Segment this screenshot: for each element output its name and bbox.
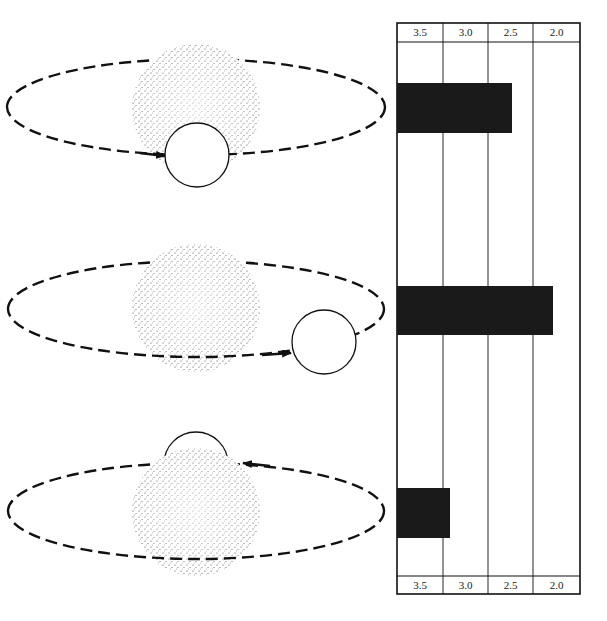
bar-secondary-eclipse bbox=[397, 488, 450, 538]
bottom-tick-label: 3.0 bbox=[459, 579, 473, 591]
brightness-bar-chart: 3.5 3.0 2.5 2.0 3.5 3.0 2.5 2.0 bbox=[397, 23, 580, 594]
diagram-out-of-eclipse bbox=[8, 244, 384, 374]
star-limb-highlight bbox=[132, 244, 260, 372]
star-limb-highlight bbox=[132, 448, 260, 576]
top-tick-label: 2.0 bbox=[550, 26, 564, 38]
diagram-transit bbox=[7, 44, 385, 187]
top-tick-label: 2.5 bbox=[504, 26, 518, 38]
bar-transit bbox=[397, 83, 512, 133]
top-tick-label: 3.5 bbox=[413, 26, 427, 38]
diagram-secondary-eclipse bbox=[8, 432, 384, 576]
planet bbox=[292, 310, 356, 374]
bar-out-of-eclipse bbox=[397, 286, 553, 335]
bottom-tick-label: 2.5 bbox=[504, 579, 518, 591]
bottom-tick-label: 3.5 bbox=[413, 579, 427, 591]
top-tick-label: 3.0 bbox=[459, 26, 473, 38]
planet bbox=[165, 123, 229, 187]
eclipse-diagram-figure: 3.5 3.0 2.5 2.0 3.5 3.0 2.5 2.0 bbox=[0, 0, 607, 621]
bottom-tick-label: 2.0 bbox=[550, 579, 564, 591]
